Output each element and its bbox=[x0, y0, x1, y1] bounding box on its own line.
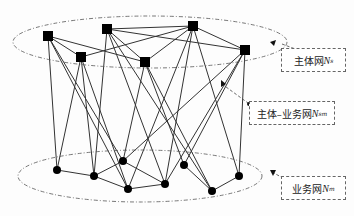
edges bbox=[48, 26, 245, 191]
label-sub: s bbox=[330, 57, 333, 64]
label-symbol: N bbox=[324, 55, 331, 66]
subject-business-net-label: 主体–业务网Nsm bbox=[249, 101, 335, 125]
label-sub: m bbox=[329, 185, 335, 192]
business-net-label: 业务网Nm bbox=[281, 176, 346, 200]
label-symbol: N bbox=[322, 183, 329, 194]
label-text: 主体网 bbox=[294, 53, 324, 68]
network-diagram: 主体网Ns 主体–业务网Nsm 业务网Nm bbox=[0, 0, 354, 216]
subject-net-label: 主体网Ns bbox=[281, 48, 346, 72]
label-symbol: N bbox=[312, 108, 319, 119]
label-text: 业务网 bbox=[292, 181, 322, 196]
label-sub: sm bbox=[318, 110, 327, 117]
business-nodes bbox=[53, 157, 243, 195]
label-text: 主体–业务网 bbox=[257, 106, 312, 121]
